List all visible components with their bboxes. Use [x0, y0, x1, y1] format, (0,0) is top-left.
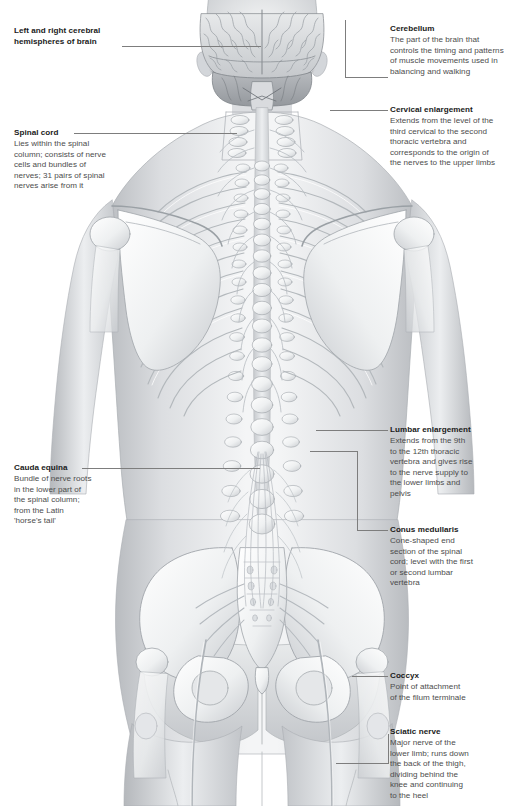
callout-body-sciatic-nerve: Major nerve of the lower limb; runs down… — [390, 738, 522, 802]
leader-cerebral-hemispheres — [122, 46, 261, 47]
callout-body-conus-medullaris: Cone-shaped end section of the spinal co… — [390, 536, 522, 589]
callout-body-cauda-equina: Bundle of nerve roots in the lower part … — [14, 474, 126, 527]
leader-cervical-enlargement — [330, 110, 388, 111]
callout-title-cerebellum: Cerebellum — [390, 23, 522, 34]
callout-cerebellum: Cerebellum The part of the brain that co… — [390, 23, 522, 77]
callout-cauda-equina: Cauda equina Bundle of nerve roots in th… — [14, 462, 126, 527]
leader-coccyx — [352, 676, 388, 677]
leader-sciatic-nerve — [336, 763, 388, 764]
callout-title-conus-medullaris: Conus medullaris — [390, 524, 522, 535]
callout-body-cervical-enlargement: Extends from the level of the third cerv… — [390, 116, 522, 169]
callout-spinal-cord: Spinal cord Lies within the spinal colum… — [14, 127, 126, 192]
callout-title-sciatic-nerve: Sciatic nerve — [390, 726, 522, 737]
callout-lumbar-enlargement: Lumbar enlargement Extends from the 9th … — [390, 424, 522, 500]
leader-cerebellum-bracket — [345, 20, 346, 78]
leader-lumbar-enlargement — [316, 430, 388, 431]
callout-body-coccyx: Point of attachment of the filum termina… — [390, 682, 522, 703]
callout-title-cervical-enlargement: Cervical enlargement — [390, 104, 522, 115]
callout-coccyx: Coccyx Point of attachment of the filum … — [390, 670, 522, 703]
callout-body-spinal-cord: Lies within the spinal column; consists … — [14, 139, 126, 192]
callout-title-cerebral-hemispheres: Left and right cerebral hemispheres of b… — [14, 25, 126, 47]
callout-sciatic-nerve: Sciatic nerve Major nerve of the lower l… — [390, 726, 522, 802]
diagram-canvas: Left and right cerebral hemispheres of b… — [0, 0, 525, 806]
callout-title-spinal-cord: Spinal cord — [14, 127, 126, 138]
leader-cerebellum — [345, 77, 388, 78]
leader-conus-bracket — [357, 451, 358, 530]
leader-conus-medullaris — [357, 530, 388, 531]
callout-title-lumbar-enlargement: Lumbar enlargement — [390, 424, 522, 435]
leader-sciatic-bracket — [388, 734, 389, 764]
callout-title-coccyx: Coccyx — [390, 670, 522, 681]
callout-body-cerebellum: The part of the brain that controls the … — [390, 35, 522, 77]
leader-conus-bracket-top — [310, 451, 358, 452]
callout-conus-medullaris: Conus medullaris Cone-shaped end section… — [390, 524, 522, 589]
callout-cerebral-hemispheres: Left and right cerebral hemispheres of b… — [14, 25, 126, 48]
callout-body-lumbar-enlargement: Extends from the 9th to the 12th thoraci… — [390, 436, 522, 500]
callout-title-cauda-equina: Cauda equina — [14, 462, 126, 473]
callout-cervical-enlargement: Cervical enlargement Extends from the le… — [390, 104, 522, 169]
